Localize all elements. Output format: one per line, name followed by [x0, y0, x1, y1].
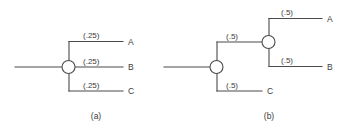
- panel-a-caption: (a): [91, 111, 102, 121]
- panel-a-node: [62, 61, 75, 74]
- panel-a-endpoint-b: B: [128, 62, 134, 72]
- panel-b-prob-sub-top: (.5): [281, 8, 293, 17]
- panel-a-endpoint-c: C: [128, 86, 134, 96]
- panel-a-prob-bot: (.25): [83, 81, 100, 90]
- panel-b-prob-sub-bot: (.5): [281, 56, 293, 65]
- panel-b-prob-lower: (.5): [226, 81, 238, 90]
- panel-b-endpoint-a: A: [327, 14, 333, 24]
- figure-canvas: (.25) (.25) (.25) A B C (a): [0, 0, 345, 134]
- panel-b-node-2: [262, 36, 275, 49]
- probability-tree-diagram: (.25) (.25) (.25) A B C (a): [0, 0, 345, 134]
- panel-b: (.5) (.5) (.5) (.5) A B C (b): [164, 8, 333, 121]
- panel-a: (.25) (.25) (.25) A B C (a): [15, 31, 134, 121]
- panel-a-prob-mid: (.25): [83, 57, 100, 66]
- panel-b-caption: (b): [264, 111, 275, 121]
- panel-b-endpoint-b: B: [327, 62, 333, 72]
- panel-b-prob-upper: (.5): [226, 32, 238, 41]
- panel-b-node-1: [210, 61, 223, 74]
- panel-a-prob-top: (.25): [83, 31, 100, 40]
- panel-b-endpoint-c: C: [267, 86, 273, 96]
- panel-a-endpoint-a: A: [128, 37, 134, 47]
